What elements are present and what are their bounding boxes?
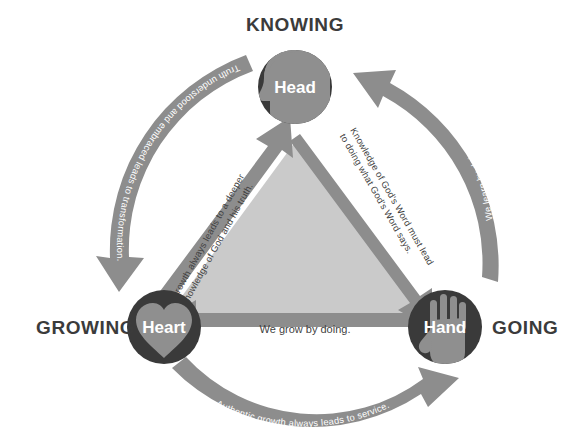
corner-label-growing: GROWING — [36, 317, 135, 338]
outer-arrow-heart-to-hand — [172, 357, 459, 427]
node-hand[interactable]: Hand — [408, 290, 482, 368]
corner-label-knowing: KNOWING — [246, 14, 344, 35]
diagram-canvas: Truth understood and embraced leads to t… — [0, 0, 572, 447]
inner-label-hand-to-heart: We grow by doing. — [260, 323, 351, 335]
node-heart[interactable]: Heart — [127, 290, 201, 364]
node-hand-label: Hand — [424, 318, 467, 337]
node-heart-label: Heart — [142, 318, 186, 337]
inner-triangle-group — [158, 117, 432, 341]
node-head[interactable]: Head — [258, 48, 332, 132]
node-head-label: Head — [274, 78, 316, 97]
ministry-cycle-diagram: Truth understood and embraced leads to t… — [0, 0, 572, 447]
corner-label-going: GOING — [492, 317, 558, 338]
